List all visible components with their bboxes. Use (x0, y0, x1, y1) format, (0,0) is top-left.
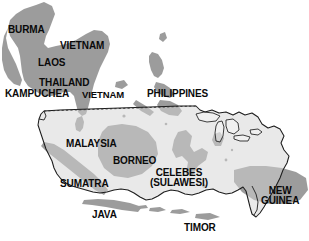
map-label-line: VIETNAM (60, 41, 104, 51)
map-label-timor: TIMOR (184, 223, 216, 233)
scale-comparison-map: BURMAVIETNAMLAOSTHAILANDKAMPUCHEAVIETNAM… (0, 0, 309, 241)
map-label-line: (SULAWESI) (150, 178, 208, 188)
map-label-kampuchea: KAMPUCHEA (5, 89, 69, 99)
map-label-line: SUMATRA (60, 179, 109, 189)
map-label-new-guinea: NEWGUINEA (261, 186, 299, 206)
map-label-burma: BURMA (8, 25, 45, 35)
map-label-vietnam-s: VIETNAM (82, 90, 124, 100)
map-label-borneo: BORNEO (113, 156, 156, 166)
map-label-line: KAMPUCHEA (5, 89, 69, 99)
map-label-line: PHILIPPINES (147, 89, 208, 99)
map-label-philippines: PHILIPPINES (147, 89, 208, 99)
map-label-thailand: THAILAND (39, 78, 89, 88)
map-label-malaysia: MALAYSIA (66, 139, 117, 149)
map-label-line: VIETNAM (82, 90, 124, 100)
map-label-line: JAVA (92, 210, 117, 220)
map-label-celebes: CELEBES(SULAWESI) (150, 168, 208, 188)
map-label-line: MALAYSIA (66, 139, 117, 149)
map-label-sumatra: SUMATRA (60, 179, 109, 189)
map-label-line: BORNEO (113, 156, 156, 166)
lake-erie (234, 135, 250, 141)
map-label-line: LAOS (38, 58, 65, 68)
map-label-laos: LAOS (38, 58, 65, 68)
map-label-line: GUINEA (261, 196, 299, 206)
map-label-vietnam-n: VIETNAM (60, 41, 104, 51)
map-label-line: BURMA (8, 25, 45, 35)
map-label-java: JAVA (92, 210, 117, 220)
map-label-line: THAILAND (39, 78, 89, 88)
map-label-line: TIMOR (184, 223, 216, 233)
